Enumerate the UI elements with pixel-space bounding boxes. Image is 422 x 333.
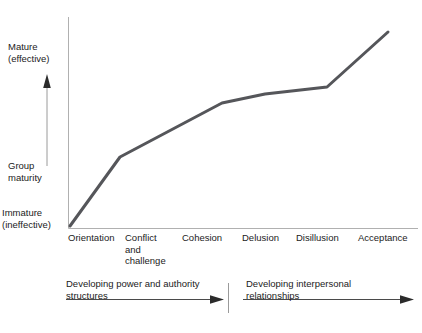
x-tick-acceptance: Acceptance xyxy=(358,232,420,244)
left-phase-annotation: Developing power and authority structure… xyxy=(66,278,236,301)
x-tick-conflict-and-challenge: Conflict and challenge xyxy=(125,232,179,267)
maturity-line-series xyxy=(70,32,388,226)
group-maturity-chart: Mature (effective) Group maturity Immatu… xyxy=(0,0,422,333)
up-arrow-icon xyxy=(43,74,51,166)
x-tick-cohesion: Cohesion xyxy=(182,232,238,244)
x-tick-delusion: Delusion xyxy=(242,232,292,244)
right-phase-annotation: Developing interpersonal relationships xyxy=(246,278,421,301)
x-axis-tick-labels: Orientation Conflict and challenge Cohes… xyxy=(68,232,418,272)
x-tick-orientation: Orientation xyxy=(68,232,128,244)
x-tick-disillusion: Disillusion xyxy=(296,232,354,244)
